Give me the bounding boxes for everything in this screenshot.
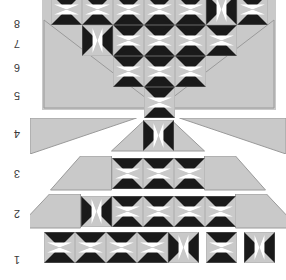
quilt-block-row2-4: [174, 196, 205, 227]
quilt-block-row6-1: [113, 56, 144, 87]
quilt-block-row1-5: [168, 232, 199, 263]
row-panel-2: [30, 194, 286, 230]
quilt-block-row6-2: [144, 56, 175, 87]
quilt-block-row7-2: [113, 25, 144, 56]
axis-label-2: 2: [0, 208, 34, 219]
quilt-block-row8-2: [82, 0, 113, 25]
quilt-block-row2-2: [112, 196, 143, 227]
row-number-axis: 1 2 3 4 5 6 7 8: [0, 0, 34, 280]
quilt-block-row8-1: [51, 0, 82, 25]
quilt-block-row8-6: [206, 0, 237, 25]
quilt-block-row7-5: [206, 25, 237, 56]
axis-label-3: 3: [0, 168, 34, 179]
row-panel-4: [30, 118, 286, 154]
quilt-block-row8-3: [113, 0, 144, 25]
axis-label-5: 5: [0, 90, 34, 101]
chevron-panel-rows-5-8: [42, 0, 276, 110]
quilt-block-row1-3: [106, 232, 137, 263]
axis-label-1: 1: [0, 254, 34, 265]
row-panel-1: [44, 230, 284, 270]
diagram-canvas: 1 2 3 4 5 6 7 8: [0, 0, 286, 280]
quilt-block-row4-1: [143, 120, 174, 151]
axis-label-4: 4: [0, 128, 34, 139]
axis-label-7: 7: [0, 38, 34, 49]
quilt-block-row3-1: [112, 158, 143, 189]
quilt-block-row1-7: [244, 232, 275, 263]
quilt-block-row7-1: [82, 25, 113, 56]
quilt-block-row1-4: [137, 232, 168, 263]
quilt-block-row7-4: [175, 25, 206, 56]
quilt-block-row8-7: [237, 0, 268, 25]
quilt-block-row2-5: [205, 196, 236, 227]
quilt-block-row1-2: [75, 232, 106, 263]
quilt-block-row2-3: [143, 196, 174, 227]
quilt-block-row1-1: [44, 232, 75, 263]
quilt-block-row3-3: [174, 158, 205, 189]
quilt-block-row8-5: [175, 0, 206, 25]
quilt-block-row1-6: [206, 232, 237, 263]
quilt-block-row8-4: [144, 0, 175, 25]
quilt-block-row6-3: [175, 56, 206, 87]
quilt-block-row3-2: [143, 158, 174, 189]
axis-label-6: 6: [0, 62, 34, 73]
quilt-block-row7-3: [144, 25, 175, 56]
quilt-block-row5-1: [144, 87, 175, 118]
axis-label-8: 8: [0, 18, 34, 29]
row-panel-3: [30, 156, 286, 192]
quilt-block-row2-1: [81, 196, 112, 227]
